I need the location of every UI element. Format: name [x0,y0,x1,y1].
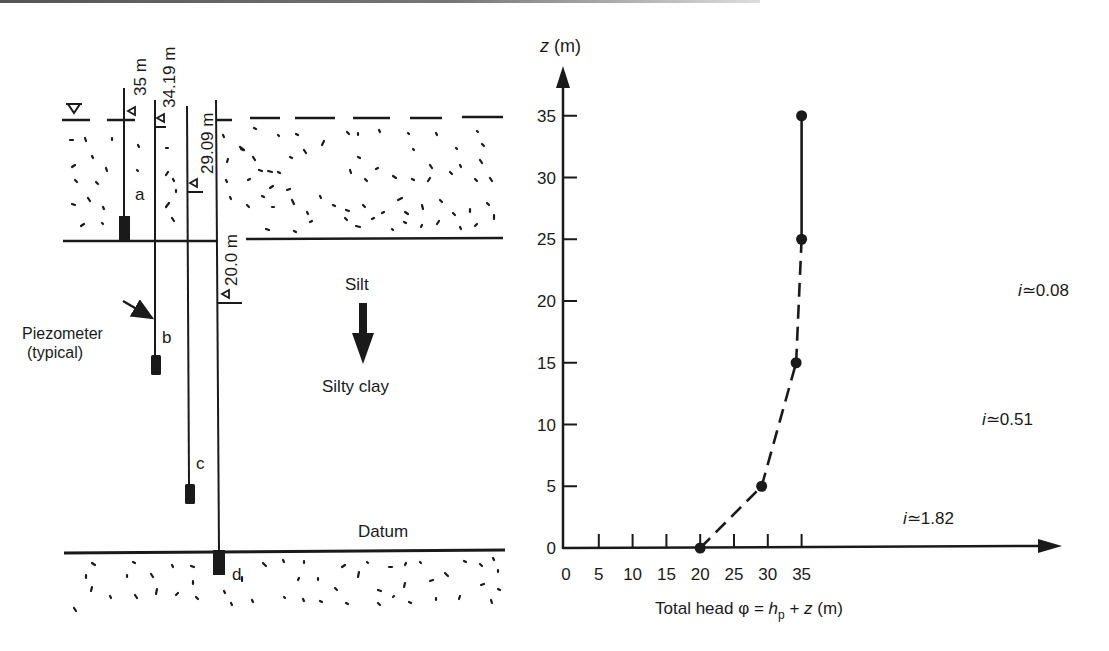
gradient-annotation-0-51: i≃0.51 [982,410,1033,429]
x-tick-label: 0 [561,565,570,584]
x-tick-label: 25 [725,565,744,584]
piezometer-label-line1: Piezometer [22,325,104,342]
piezometer-d-label: d [232,565,241,584]
segment-dashed [762,363,796,487]
head-chart: 05101520253035 05101520253035 z (m) Tota… [537,36,1069,622]
y-tick-label: 25 [537,230,556,249]
y-tick-label: 30 [537,169,556,188]
x-tick-label: 35 [792,565,811,584]
water-table-symbol [66,104,82,113]
segment-dashed [796,239,801,363]
piezometer-b-reading: 34.19 m [160,47,179,108]
x-tick-label: 5 [594,565,603,584]
y-tick-label: 20 [537,292,556,311]
x-axis-label: Total head φ = hp + z (m) [655,599,843,622]
piezometer-label-line2: (typical) [27,344,83,361]
x-tick-label: 30 [758,565,777,584]
x-tick-label: 10 [623,565,642,584]
y-tick-label: 15 [537,354,556,373]
x-tick-label: 20 [691,565,710,584]
x-axis [563,546,1045,548]
y-axis-arrow-icon [556,66,570,88]
silt-texture [70,128,494,232]
gradient-annotation-1-82: i≃1.82 [903,509,954,528]
piezometer-c-reading: 29.09 m [198,113,217,174]
datum-line [64,550,505,553]
soil-profile-diagram: a 35 m b 34.19 m c 29.09 m d 20.0 m Piez… [0,0,1109,651]
water-table-line [62,117,503,120]
piezometer-a-label: a [135,185,145,204]
y-axis-label: z (m) [539,36,581,56]
head-profile-series [695,110,807,553]
downward-flow-arrow [352,303,374,364]
datum-label: Datum [358,522,408,541]
silt-label: Silt [345,275,369,294]
piezometer-c: c 29.09 m [185,106,217,504]
gradient-annotation-0-08: i≃0.08 [1018,281,1069,300]
x-tick-label: 15 [657,565,676,584]
segment-dashed [700,486,761,548]
data-point [796,110,807,121]
piezometer-b-label: b [162,328,171,347]
data-point [791,357,802,368]
y-tick-label: 5 [547,477,556,496]
piezometer-a: a 35 m [119,58,150,241]
piezometer-d: d 20.0 m [213,100,242,584]
data-point [695,543,706,554]
x-axis-arrow-icon [1038,539,1062,553]
y-tick-label: 0 [547,539,556,558]
silty-clay-label: Silty clay [322,377,390,396]
y-tick-label: 10 [537,416,556,435]
base-layer-texture [74,558,500,611]
data-point [756,481,767,492]
data-point [796,234,807,245]
y-tick-label: 35 [537,107,556,126]
piezometer-d-reading: 20.0 m [222,234,241,286]
piezometer-c-label: c [196,454,205,473]
piezometer-b: b 34.19 m [151,47,179,375]
piezometer-a-reading: 35 m [131,58,150,96]
piezometer-pointer-arrow [123,301,152,318]
